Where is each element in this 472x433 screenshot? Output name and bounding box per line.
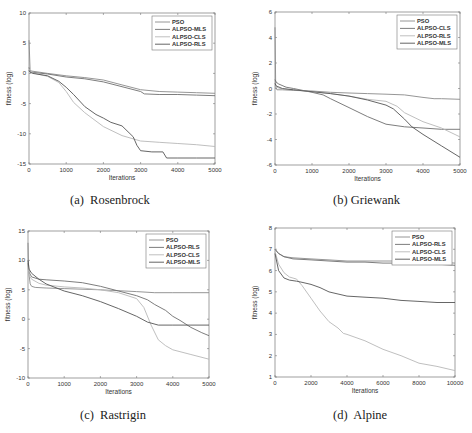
x-tick-label: 8000: [412, 380, 426, 386]
x-tick-label: 1000: [58, 381, 72, 387]
y-tick-label: 15: [18, 228, 25, 234]
chart-d-plot: 020004000600080001000012345678Iterations…: [236, 216, 472, 433]
y-axis-label: fitness (log): [251, 72, 259, 106]
x-tick-label: 1000: [305, 168, 319, 174]
chart-a-caption: (a) Rosenbrock: [70, 193, 150, 208]
x-tick-label: 0: [27, 167, 31, 173]
y-tick-label: 10: [18, 257, 25, 263]
x-tick-label: 6000: [376, 380, 390, 386]
legend-label: ALPSO-MLS: [166, 259, 200, 265]
x-tick-label: 4000: [171, 167, 185, 173]
y-tick-label: -2: [267, 111, 273, 117]
chart-panel-c: 010002000300040005000-10-5051015Iteratio…: [0, 216, 236, 432]
y-tick-label: 4: [269, 35, 273, 41]
chart-b-plot: 010002000300040005000-6-4-20246Iteration…: [236, 0, 472, 216]
legend-label: ALPSO-MLS: [172, 26, 206, 32]
legend-label: ALPSO-MLS: [412, 256, 446, 262]
y-tick-label: 5: [269, 289, 273, 295]
y-axis-label: fitness (log): [251, 286, 259, 320]
chart-b-caption: (b) Griewank: [333, 193, 400, 208]
legend-label: ALPSO-MLS: [417, 40, 451, 46]
legend-label: PSO: [417, 18, 430, 24]
y-axis-label: fitness (log): [5, 72, 13, 106]
chart-panel-d: 020004000600080001000012345678Iterations…: [236, 216, 472, 432]
y-tick-label: 0: [22, 316, 26, 322]
x-tick-label: 3000: [130, 381, 144, 387]
x-tick-label: 3000: [379, 168, 393, 174]
x-axis-label: Iterations: [109, 174, 136, 181]
y-tick-label: -5: [20, 346, 26, 352]
legend-label: ALPSO-RLS: [172, 41, 206, 47]
legend-label: PSO: [412, 234, 425, 240]
y-tick-label: 7: [269, 246, 273, 252]
legend: PSOALPSO-RLSALPSO-CLSALPSO-MLS: [146, 234, 206, 268]
x-axis-label: Iterations: [105, 388, 132, 395]
x-axis-label: Iterations: [354, 175, 381, 182]
chart-c-plot: 010002000300040005000-10-5051015Iteratio…: [0, 216, 236, 433]
legend-label: ALPSO-CLS: [166, 252, 200, 258]
y-tick-label: 0: [23, 70, 27, 76]
x-tick-label: 10000: [447, 380, 464, 386]
legend-label: ALPSO-RLS: [417, 33, 451, 39]
x-tick-label: 5000: [208, 167, 222, 173]
y-tick-label: 6: [269, 9, 273, 15]
y-tick-label: 3: [269, 331, 273, 337]
x-tick-label: 4000: [166, 381, 180, 387]
legend: PSOALPSO-CLSALPSO-RLSALPSO-MLS: [397, 15, 457, 49]
x-axis-label: Iterations: [352, 387, 379, 394]
y-tick-label: 1: [269, 374, 273, 380]
x-tick-label: 2000: [342, 168, 356, 174]
y-tick-label: -10: [16, 375, 25, 381]
legend: PSOALPSO-RLSALPSO-CLSALPSO-MLS: [392, 231, 452, 265]
legend: PSOALPSO-MLSALPSO-CLSALPSO-RLS: [152, 16, 212, 50]
x-tick-label: 5000: [202, 381, 216, 387]
y-tick-label: 2: [269, 353, 273, 359]
legend-label: ALPSO-CLS: [172, 34, 206, 40]
x-tick-label: 2000: [94, 381, 108, 387]
x-tick-label: 0: [273, 380, 277, 386]
x-tick-label: 2000: [97, 167, 111, 173]
legend-label: ALPSO-RLS: [166, 244, 200, 250]
chart-d-caption: (d) Alpine: [333, 408, 387, 423]
y-tick-label: -15: [17, 161, 26, 167]
legend-label: ALPSO-RLS: [412, 241, 446, 247]
y-tick-label: 10: [19, 10, 26, 16]
y-tick-label: -6: [267, 162, 273, 168]
x-tick-label: 3000: [134, 167, 148, 173]
y-tick-label: 8: [269, 225, 273, 231]
chart-c-caption: (c) Rastrigin: [80, 408, 146, 423]
y-tick-label: 5: [22, 287, 26, 293]
y-tick-label: 5: [23, 40, 27, 46]
legend-label: PSO: [166, 237, 179, 243]
y-tick-label: -10: [17, 131, 26, 137]
chart-panel-b: 010002000300040005000-6-4-20246Iteration…: [236, 0, 472, 216]
x-tick-label: 1000: [60, 167, 74, 173]
x-tick-label: 0: [273, 168, 277, 174]
y-tick-label: 6: [269, 268, 273, 274]
y-tick-label: -5: [21, 101, 27, 107]
legend-label: PSO: [172, 19, 185, 25]
y-axis-label: fitness (log): [4, 288, 12, 322]
y-tick-label: 2: [269, 60, 273, 66]
legend-label: ALPSO-CLS: [417, 25, 451, 31]
chart-panel-a: 010002000300040005000-15-10-50510Iterati…: [0, 0, 236, 216]
y-tick-label: -4: [267, 137, 273, 143]
legend-label: ALPSO-CLS: [412, 249, 446, 255]
x-tick-label: 2000: [304, 380, 318, 386]
y-tick-label: 0: [269, 86, 273, 92]
chart-a-plot: 010002000300040005000-15-10-50510Iterati…: [0, 0, 236, 216]
x-tick-label: 4000: [416, 168, 430, 174]
x-tick-label: 4000: [340, 380, 354, 386]
x-tick-label: 5000: [453, 168, 467, 174]
y-tick-label: 4: [269, 310, 273, 316]
x-tick-label: 0: [26, 381, 30, 387]
